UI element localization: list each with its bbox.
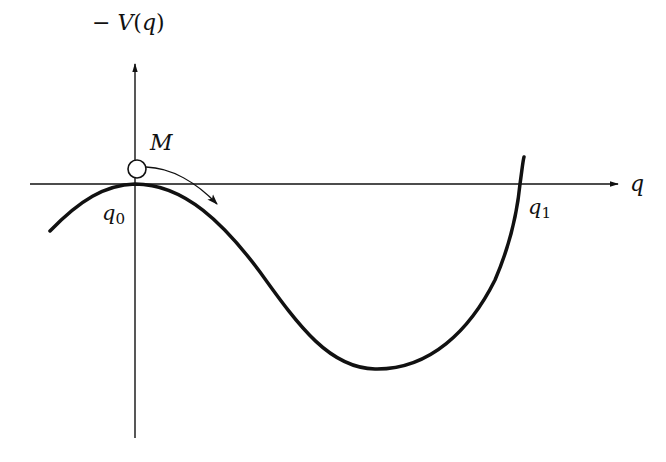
paren-open: (	[133, 10, 142, 35]
potential-curve	[50, 157, 524, 369]
x-axis-label: q	[630, 173, 644, 195]
particle-label-text: M	[150, 130, 173, 155]
q0-base: q	[102, 201, 115, 225]
minus-sign: −	[92, 10, 110, 35]
particle-label: M	[150, 132, 173, 154]
q0-sub: 0	[115, 210, 125, 228]
q1-label: q1	[528, 197, 551, 221]
q1-base: q	[528, 195, 541, 219]
y-axis-label: − V(q)	[92, 12, 165, 34]
x-axis-label-text: q	[630, 171, 644, 196]
particle-circle	[128, 160, 146, 178]
y-axis-var: V	[117, 10, 133, 35]
potential-diagram	[0, 0, 666, 462]
paren-close: )	[156, 10, 165, 35]
q0-label: q0	[102, 203, 125, 227]
q1-sub: 1	[541, 204, 551, 222]
y-axis-arg: q	[142, 10, 156, 35]
